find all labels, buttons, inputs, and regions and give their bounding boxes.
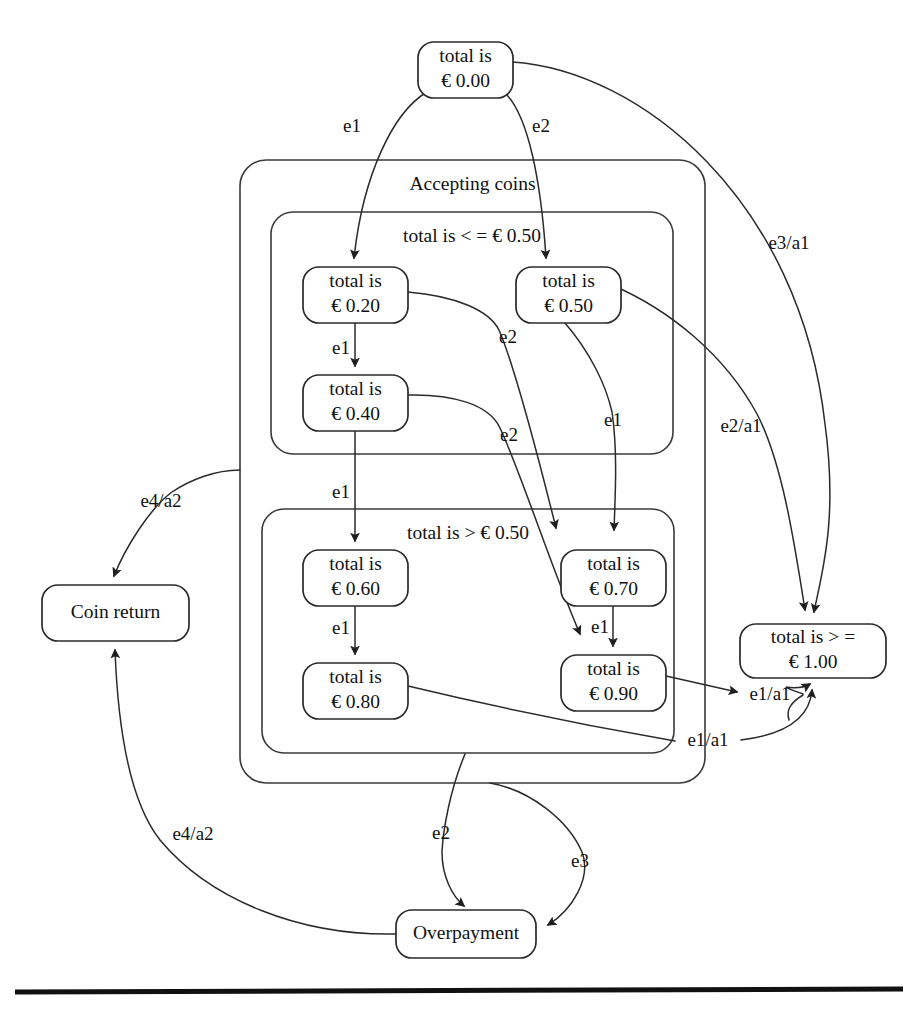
state-total-070-line2: € 0.70 (589, 578, 638, 599)
state-total-000-line1: total is (439, 45, 492, 66)
state-overpayment[interactable]: Overpayment (396, 910, 536, 958)
state-total-050-line2: € 0.50 (544, 295, 593, 316)
transition-label-e2-overpayment: e2 (432, 822, 450, 843)
state-total-000[interactable]: total is € 0.00 (418, 42, 513, 98)
state-total-040[interactable]: total is € 0.40 (303, 375, 408, 431)
transition-label-e3-overpayment: e3 (571, 850, 589, 871)
statechart-canvas: Accepting coins total is < = € 0.50 tota… (0, 0, 918, 1015)
state-total-070-line1: total is (587, 553, 640, 574)
transition-label-e2-000-050: e2 (532, 115, 550, 136)
transition-label-e1-070-090: e1 (591, 616, 609, 637)
state-total-050-line1: total is (542, 270, 595, 291)
state-total-020[interactable]: total is € 0.20 (303, 267, 408, 323)
transition-e1a1-090-to-100-seg (666, 676, 737, 692)
state-total-060[interactable]: total is € 0.60 (303, 550, 408, 606)
transition-label-e1-000-020: e1 (343, 115, 361, 136)
transition-e2-020-to-070 (408, 292, 556, 528)
state-total-040-line2: € 0.40 (331, 403, 380, 424)
state-coin-return[interactable]: Coin return (42, 585, 189, 641)
state-total-020-line1: total is (329, 270, 382, 291)
state-coin-return-label: Coin return (71, 601, 161, 622)
transition-e2-040-to-090 (408, 395, 580, 634)
transition-label-e1-020-040: e1 (332, 337, 350, 358)
state-total-090-line2: € 0.90 (589, 683, 638, 704)
state-total-000-line2: € 0.00 (441, 70, 490, 91)
transition-e3a1-000-to-100 (512, 62, 830, 612)
state-total-080[interactable]: total is € 0.80 (303, 663, 408, 719)
state-total-050[interactable]: total is € 0.50 (516, 267, 621, 323)
region-accepting-coins-label: Accepting coins (409, 173, 535, 194)
transition-label-e2-020-070: e2 (499, 326, 517, 347)
transition-label-e1a1-080-100: e1/a1 (687, 729, 728, 750)
transition-label-e4a2-accepting: e4/a2 (140, 490, 181, 511)
transition-label-e1-060-080: e1 (332, 617, 350, 638)
state-total-090-line1: total is (587, 658, 640, 679)
statechart-diagram: Accepting coins total is < = € 0.50 tota… (0, 0, 918, 1015)
state-total-ge-100-line2: € 1.00 (789, 651, 838, 672)
transition-e4a2-accepting-to-coinreturn (114, 470, 240, 576)
state-total-060-line1: total is (329, 553, 382, 574)
transition-label-e1a1-090-100: e1/a1 (749, 683, 790, 704)
state-overpayment-label: Overpayment (413, 922, 520, 943)
state-total-040-line1: total is (329, 378, 382, 399)
state-total-ge-100[interactable]: total is > = € 1.00 (740, 624, 886, 678)
transition-label-e4a2-overpayment: e4/a2 (172, 823, 213, 844)
transition-label-e2-040-090: e2 (500, 424, 518, 445)
state-total-080-line2: € 0.80 (331, 691, 380, 712)
state-total-060-line2: € 0.60 (331, 578, 380, 599)
state-total-070[interactable]: total is € 0.70 (561, 550, 666, 606)
transition-label-e1-050-070: e1 (604, 409, 622, 430)
state-total-080-line1: total is (329, 666, 382, 687)
bottom-divider-rule (15, 989, 903, 992)
state-total-090[interactable]: total is € 0.90 (561, 655, 666, 711)
transition-label-e1-040-060: e1 (332, 481, 350, 502)
region-total-gt-050-label: total is > € 0.50 (407, 522, 529, 543)
region-total-le-050-label: total is < = € 0.50 (403, 225, 541, 246)
transition-label-e3a1-000-100: e3/a1 (768, 232, 809, 253)
state-total-ge-100-line1: total is > = (771, 626, 855, 647)
transition-label-e2a1-050-100: e2/a1 (720, 415, 761, 436)
state-total-020-line2: € 0.20 (331, 295, 380, 316)
